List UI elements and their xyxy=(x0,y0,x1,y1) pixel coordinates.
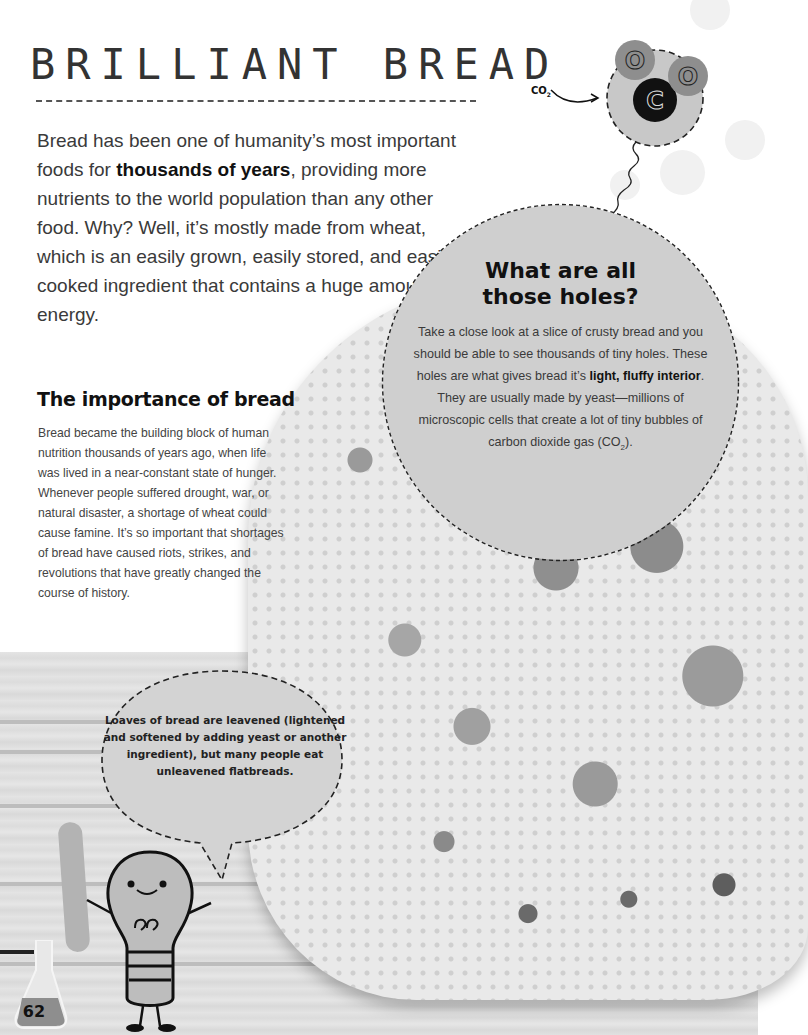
svg-text:O: O xyxy=(625,47,645,75)
svg-text:C: C xyxy=(646,87,664,115)
section-heading: The importance of bread xyxy=(37,388,295,410)
lightbulb-mascot-icon xyxy=(85,848,215,1033)
page-title: BRILLIANT BREAD xyxy=(30,40,559,89)
speech-bubble-text: Loaves of bread are leavened (lightened … xyxy=(100,712,350,780)
section-body: Bread became the building block of human… xyxy=(38,423,288,603)
intro-emphasis: thousands of years xyxy=(116,159,290,180)
co2-molecule-icon: C O O xyxy=(600,40,710,150)
callout-body: Take a close look at a slice of crusty b… xyxy=(413,321,708,459)
background-bubble xyxy=(690,0,730,30)
background-bubble xyxy=(725,120,765,160)
curved-arrow-icon xyxy=(549,84,601,108)
callout-heading: What are allthose holes? xyxy=(428,258,693,310)
page-number: 62 xyxy=(16,1002,52,1021)
title-divider xyxy=(36,100,476,102)
background-bubble xyxy=(660,150,705,195)
svg-text:O: O xyxy=(678,63,698,91)
